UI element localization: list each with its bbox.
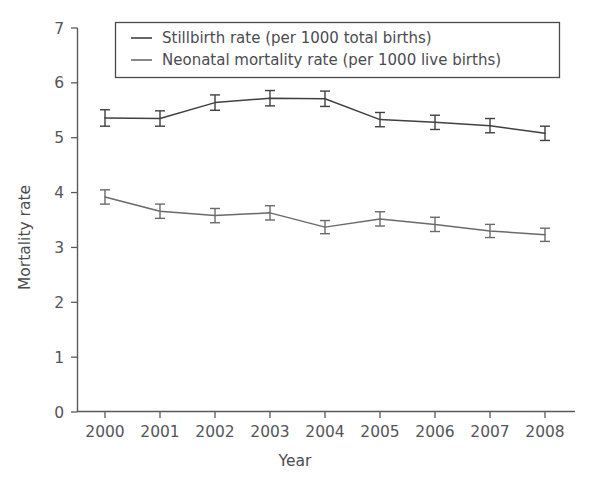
chart-canvas: 01234567 Mortality rate 2000200120022003… <box>0 0 591 482</box>
legend-items: Stillbirth rate (per 1000 total births)N… <box>131 29 501 69</box>
y-tick-label: 5 <box>54 129 64 147</box>
x-tick-label: 2004 <box>305 423 344 441</box>
x-tick-label: 2007 <box>470 423 509 441</box>
error-bar <box>100 190 110 204</box>
legend-label: Neonatal mortality rate (per 1000 live b… <box>162 51 501 69</box>
x-axis-title: Year <box>278 452 312 470</box>
y-tick-label: 4 <box>54 184 64 202</box>
y-tick-label: 0 <box>54 404 64 422</box>
x-axis-ticks <box>105 412 545 419</box>
x-tick-label: 2008 <box>525 423 564 441</box>
y-tick-label: 7 <box>54 20 64 38</box>
series-layer <box>100 91 550 242</box>
x-tick-label: 2003 <box>250 423 289 441</box>
y-axis-ticks <box>71 28 78 412</box>
x-tick-label: 2005 <box>360 423 399 441</box>
x-tick-label: 2000 <box>85 423 124 441</box>
y-tick-label: 6 <box>54 74 64 92</box>
y-axis-title: Mortality rate <box>16 185 34 290</box>
x-axis: 200020012002200320042005200620072008 Yea… <box>78 412 576 471</box>
legend-item: Stillbirth rate (per 1000 total births) <box>131 29 432 47</box>
y-tick-label: 3 <box>54 239 64 257</box>
x-tick-label: 2001 <box>140 423 179 441</box>
series-neonatal <box>100 190 550 242</box>
x-tick-label: 2006 <box>415 423 454 441</box>
legend-item: Neonatal mortality rate (per 1000 live b… <box>131 51 501 69</box>
mortality-rate-line-chart: 01234567 Mortality rate 2000200120022003… <box>0 0 591 482</box>
legend: Stillbirth rate (per 1000 total births)N… <box>116 23 560 78</box>
series-stillbirth <box>100 91 550 141</box>
x-axis-tick-labels: 200020012002200320042005200620072008 <box>85 423 564 441</box>
x-tick-label: 2002 <box>195 423 234 441</box>
y-tick-label: 1 <box>54 349 64 367</box>
y-tick-label: 2 <box>54 294 64 312</box>
y-axis: 01234567 Mortality rate <box>16 20 78 422</box>
legend-label: Stillbirth rate (per 1000 total births) <box>162 29 432 47</box>
y-axis-tick-labels: 01234567 <box>54 20 64 422</box>
